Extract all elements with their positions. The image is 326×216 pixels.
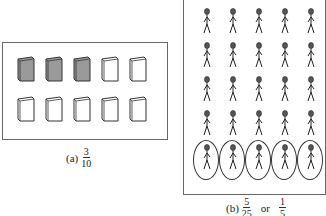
- person-icon: [200, 76, 214, 102]
- person-icon: [278, 8, 292, 34]
- person-icon: [226, 76, 240, 102]
- person-icon: [200, 8, 214, 34]
- person-icon-circled: [200, 144, 214, 170]
- person-icon: [252, 42, 266, 68]
- person-icon: [304, 110, 318, 136]
- person-icon-circled: [252, 144, 266, 170]
- fraction-1-5: 1 5: [279, 196, 286, 216]
- caption-b: (b) 5 25 or 1 5: [226, 196, 286, 216]
- person-icon-circled: [278, 144, 292, 170]
- person-icon: [304, 8, 318, 34]
- fraction-5-25: 5 25: [242, 196, 252, 216]
- person-icon: [252, 8, 266, 34]
- books-panel: [2, 42, 168, 140]
- person-icon: [200, 42, 214, 68]
- person-icon-circled: [226, 144, 240, 170]
- book-icon: [101, 56, 119, 82]
- person-icon: [278, 76, 292, 102]
- person-icon: [304, 76, 318, 102]
- person-icon: [252, 110, 266, 136]
- book-icon: [73, 96, 91, 122]
- person-icon: [278, 110, 292, 136]
- caption-a: (a) 3 10: [66, 146, 91, 169]
- person-icon: [252, 76, 266, 102]
- person-icon: [304, 42, 318, 68]
- book-icon-shaded: [17, 56, 35, 82]
- person-icon: [226, 110, 240, 136]
- person-icon-circled: [304, 144, 318, 170]
- person-icon: [200, 110, 214, 136]
- people-panel: [183, 0, 326, 195]
- book-icon: [129, 56, 147, 82]
- fraction-3-10: 3 10: [81, 146, 91, 169]
- book-icon: [101, 96, 119, 122]
- book-icon: [17, 96, 35, 122]
- book-icon: [45, 96, 63, 122]
- person-icon: [226, 42, 240, 68]
- book-icon-shaded: [73, 56, 91, 82]
- book-icon: [129, 96, 147, 122]
- person-icon: [278, 42, 292, 68]
- caption-a-label: (a): [66, 152, 78, 164]
- book-icon-shaded: [45, 56, 63, 82]
- person-icon: [226, 8, 240, 34]
- caption-b-label: (b): [226, 202, 239, 214]
